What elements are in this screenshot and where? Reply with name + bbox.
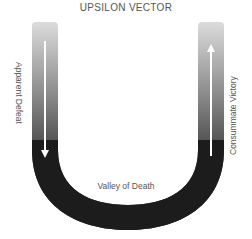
left-label: Apparent Defeat <box>14 62 24 125</box>
right-label: Consummate Victory <box>228 76 238 155</box>
upsilon-diagram: Apparent Defeat Consummate Victory <box>0 0 252 239</box>
bottom-label: Valley of Death <box>0 181 252 191</box>
